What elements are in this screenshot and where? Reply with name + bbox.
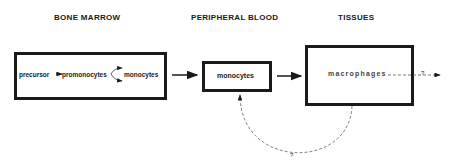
branch-arrow-up-icon	[111, 68, 122, 74]
unknown-fate-label: ?	[421, 70, 424, 76]
branch-arrow-down-icon	[111, 74, 122, 81]
return-path-label: ?	[290, 152, 293, 158]
arrows-layer	[0, 0, 454, 163]
return-arc-arrow-icon	[240, 95, 352, 153]
